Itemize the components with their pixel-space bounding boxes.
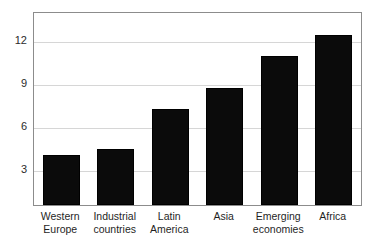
plot-area — [33, 12, 362, 206]
bar-africa[interactable] — [315, 35, 352, 206]
bar-chart: 12 9 6 3 Western Europe Industrial count… — [0, 0, 381, 249]
y-tick-label-3: 3 — [5, 164, 27, 175]
bar-emerging-economies[interactable] — [261, 56, 298, 205]
bar-industrial-countries[interactable] — [97, 149, 134, 205]
bar-asia[interactable] — [206, 88, 243, 206]
y-tick-label-6: 6 — [5, 121, 27, 132]
bar-western-europe[interactable] — [43, 155, 80, 205]
bars-layer — [34, 13, 361, 205]
x-label-africa: Africa — [299, 210, 368, 223]
y-tick-label-12: 12 — [5, 35, 27, 46]
x-axis-category-labels: Western Europe Industrial countries Lati… — [33, 210, 362, 248]
y-tick-label-9: 9 — [5, 78, 27, 89]
bar-latin-america[interactable] — [152, 109, 189, 205]
